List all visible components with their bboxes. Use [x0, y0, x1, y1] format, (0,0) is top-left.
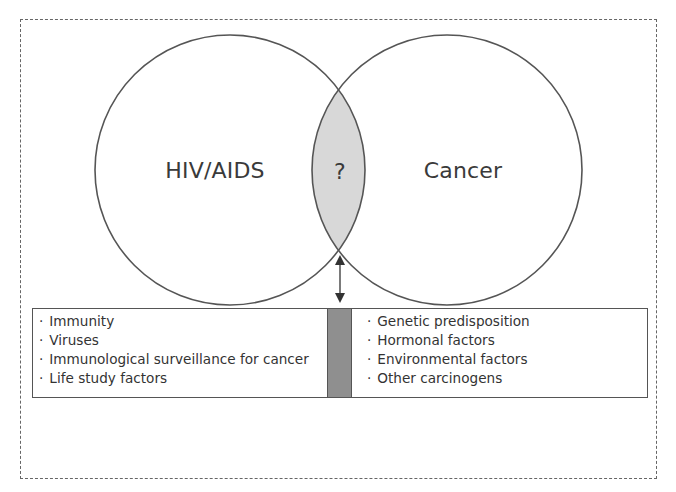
- list-item: Hormonal factors: [367, 331, 530, 350]
- intersection-question-label: ?: [334, 159, 346, 184]
- hiv-aids-label: HIV/AIDS: [165, 158, 265, 183]
- list-item: Viruses: [39, 331, 309, 350]
- list-item: Genetic predisposition: [367, 312, 530, 331]
- list-item: Environmental factors: [367, 350, 530, 369]
- cancer-factors-list: Genetic predisposition Hormonal factors …: [367, 312, 530, 388]
- factors-box: Immunity Viruses Immunological surveilla…: [32, 308, 648, 398]
- hiv-factors-list: Immunity Viruses Immunological surveilla…: [39, 312, 309, 388]
- list-item: Immunological surveillance for cancer: [39, 350, 309, 369]
- venn-diagram: [0, 0, 676, 492]
- list-item: Life study factors: [39, 369, 309, 388]
- cancer-label: Cancer: [424, 158, 503, 183]
- list-item: Other carcinogens: [367, 369, 530, 388]
- shared-factors-bar: [327, 309, 352, 397]
- list-item: Immunity: [39, 312, 309, 331]
